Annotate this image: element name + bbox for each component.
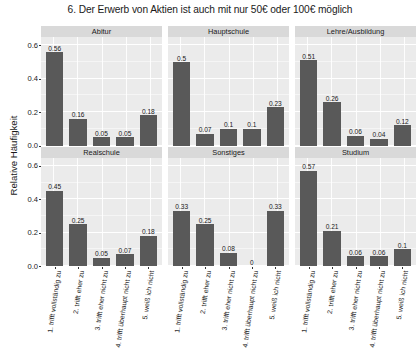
- bar[interactable]: [69, 119, 86, 146]
- facet-strip-label: Hauptschule: [168, 26, 289, 37]
- bar-value-label: 0.56: [48, 45, 61, 52]
- plot-area: 0.50.070.10.10.23: [168, 37, 289, 146]
- x-axis-column: 1. trifft vollständig zu2. trifft eher z…: [295, 267, 416, 362]
- bar-slot: 0.07: [193, 37, 216, 146]
- x-axis-tick: 2. trifft eher zu: [66, 267, 89, 362]
- facet-strip-label: Abitur: [41, 26, 162, 37]
- x-axis-tick: 1. trifft vollständig zu: [43, 267, 66, 362]
- x-axis-tick: 5. weiß ich nicht: [391, 267, 414, 362]
- bar[interactable]: [93, 137, 110, 145]
- facet-strip-label: Studium: [295, 147, 416, 158]
- bar[interactable]: [69, 224, 86, 266]
- bar[interactable]: [347, 136, 364, 146]
- x-axis-tick-label: 3. trifft eher nicht zu: [220, 270, 235, 331]
- bar-value-label: 0.07: [119, 247, 132, 254]
- bar-value-label: 0.25: [72, 217, 85, 224]
- bar-slot: 0.06: [367, 158, 390, 267]
- x-axis-tick-label: 2. trifft eher zu: [326, 270, 339, 314]
- bar[interactable]: [370, 256, 387, 266]
- x-axis-tick: 3. trifft eher nicht zu: [344, 267, 367, 362]
- x-axis-tick: 3. trifft eher nicht zu: [90, 267, 113, 362]
- bar[interactable]: [173, 211, 190, 266]
- facet-strip-label: Sonstiges: [168, 147, 289, 158]
- facet-strip-label: Realschule: [41, 147, 162, 158]
- facet-panel: Lehre/Ausbildung0.510.260.060.040.12: [295, 26, 416, 146]
- bar-value-label: 0.06: [373, 249, 386, 256]
- bar[interactable]: [394, 249, 411, 266]
- x-axis-column: 1. trifft vollständig zu2. trifft eher z…: [41, 267, 162, 362]
- facet-grid: Abitur0.560.160.050.050.18Hauptschule0.5…: [41, 26, 416, 266]
- x-axis-tick-label: 1. trifft vollständig zu: [46, 270, 62, 333]
- x-axis-tick: 5. weiß ich nicht: [264, 267, 287, 362]
- bar-value-label: 0.07: [199, 126, 212, 133]
- bar-value-label: 0.21: [326, 223, 339, 230]
- bar[interactable]: [116, 254, 133, 266]
- x-axis-tick-label: 2. trifft eher zu: [199, 270, 212, 314]
- bar[interactable]: [140, 236, 157, 266]
- plot-area: 0.450.250.050.070.18: [41, 158, 162, 267]
- bar-value-label: 0.1: [247, 121, 256, 128]
- bar-slot: 0.1: [240, 37, 263, 146]
- bar[interactable]: [267, 211, 284, 266]
- bar[interactable]: [347, 256, 364, 266]
- bar[interactable]: [370, 139, 387, 146]
- facet-panel: Abitur0.560.160.050.050.18: [41, 26, 162, 146]
- bar-slot: 0.25: [66, 158, 89, 267]
- bar-value-label: 0.45: [48, 183, 61, 190]
- bar-slot: 0.45: [43, 158, 66, 267]
- bar[interactable]: [243, 129, 260, 146]
- bar[interactable]: [196, 224, 213, 266]
- bar[interactable]: [323, 231, 340, 266]
- bar-slot: 0.21: [320, 158, 343, 267]
- bar-slot: 0.1: [391, 158, 414, 267]
- bar[interactable]: [116, 137, 133, 145]
- bar-series: 0.560.160.050.050.18: [41, 37, 162, 146]
- bar-slot: 0.18: [137, 37, 160, 146]
- bar[interactable]: [173, 62, 190, 145]
- bar-value-label: 0.25: [199, 217, 212, 224]
- bar-slot: 0.18: [137, 158, 160, 267]
- x-axis-tick-label: 3. trifft eher nicht zu: [347, 270, 362, 331]
- bar-slot: 0.06: [344, 37, 367, 146]
- bar-slot: 0.12: [391, 37, 414, 146]
- facet-panel: Realschule0.450.250.050.070.18: [41, 147, 162, 267]
- x-axis-tick-label: 4. trifft überhaupt nicht zu: [114, 270, 132, 348]
- bar-value-label: 0.1: [224, 121, 233, 128]
- bar-slot: 0: [240, 158, 263, 267]
- x-axis-tick-label: 5. weiß ich nicht: [268, 270, 282, 320]
- bar[interactable]: [323, 102, 340, 145]
- bar-slot: 0.33: [264, 158, 287, 267]
- bar-value-label: 0.18: [142, 228, 155, 235]
- x-axis-tick-mark: [148, 267, 149, 269]
- bar-value-label: 0.16: [72, 111, 85, 118]
- bar[interactable]: [46, 191, 63, 266]
- x-axis-tick-mark: [102, 267, 103, 269]
- bar-value-label: 0.1: [398, 242, 407, 249]
- x-axis-tick-label: 5. weiß ich nicht: [141, 270, 155, 320]
- x-axis-tick-label: 2. trifft eher zu: [72, 270, 85, 314]
- chart-container: 6. Der Erwerb von Aktien ist auch mit nu…: [0, 0, 420, 362]
- bar[interactable]: [93, 258, 110, 266]
- bar[interactable]: [46, 52, 63, 145]
- bar[interactable]: [220, 129, 237, 146]
- bar[interactable]: [394, 125, 411, 145]
- x-axis-tick-mark: [356, 267, 357, 269]
- y-axis-tick-label: 0.2: [12, 228, 38, 237]
- bar-series: 0.510.260.060.040.12: [295, 37, 416, 146]
- bar-slot: 0.26: [320, 37, 343, 146]
- bar[interactable]: [267, 107, 284, 145]
- bar[interactable]: [140, 115, 157, 145]
- x-axis-tick-mark: [332, 267, 333, 269]
- plot-area: 0.560.160.050.050.18: [41, 37, 162, 146]
- bar-series: 0.50.070.10.10.23: [168, 37, 289, 146]
- x-axis-tick: 4. trifft überhaupt nicht zu: [367, 267, 390, 362]
- bar[interactable]: [300, 60, 317, 145]
- x-axis-tick: 2. trifft eher zu: [320, 267, 343, 362]
- bar[interactable]: [220, 253, 237, 266]
- bar-slot: 0.5: [170, 37, 193, 146]
- bar[interactable]: [300, 171, 317, 266]
- x-axis-tick: 1. trifft vollständig zu: [297, 267, 320, 362]
- bar-value-label: 0.06: [349, 249, 362, 256]
- bar[interactable]: [196, 134, 213, 146]
- bar-slot: 0.08: [217, 158, 240, 267]
